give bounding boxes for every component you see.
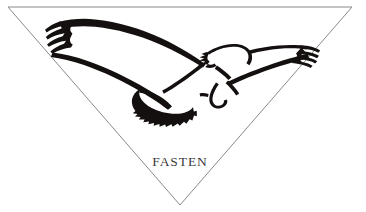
triangle-frame bbox=[8, 7, 352, 205]
logo-canvas: FASTEN bbox=[0, 0, 366, 212]
brand-wordmark: FASTEN bbox=[152, 154, 207, 169]
logo-artwork: FASTEN bbox=[0, 0, 366, 212]
